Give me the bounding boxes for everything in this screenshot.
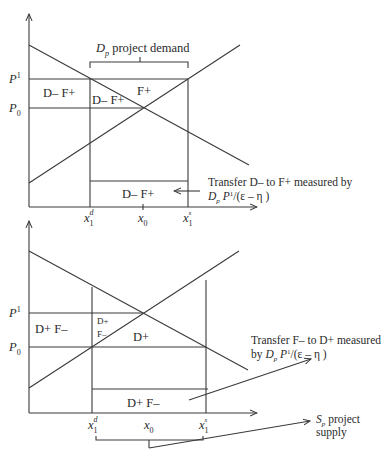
top-region-inner: D– F+ [92, 93, 124, 107]
top-panel: P1 P0 x1d x0 x1s Dp project demand D– F+… [8, 14, 353, 228]
top-transfer-note-line1: Transfer D– to F+ measured by [208, 176, 353, 189]
bottom-region-triangle: D+ [133, 330, 149, 344]
bottom-transfer-note-line1: Transfer F– to D+ measured [251, 334, 381, 346]
bottom-supply-label-line2: supply [316, 426, 347, 439]
top-region-triangle: F+ [137, 84, 151, 98]
bottom-panel: P1 P0 x1d x0 x1s D+ F– D+ F– D+ D+ F– Tr… [8, 221, 381, 448]
bottom-demand-curve [29, 251, 248, 370]
bottom-region-inner-bottom: F– [97, 329, 107, 339]
bottom-p1-label: P1 [8, 305, 21, 320]
bottom-supply-arrow [149, 421, 310, 448]
top-x0-label: x0 [137, 211, 148, 228]
top-supply-curve [29, 45, 240, 183]
bottom-supply-curve [29, 251, 239, 388]
top-transfer-note-line2: Dp P1/(ε – η ) [207, 190, 269, 205]
bottom-x1d-label: x1d [87, 415, 99, 435]
bottom-transfer-arrow [189, 359, 311, 400]
bottom-transfer-note-line2: by Dp P1/(ε – η ) [251, 348, 327, 363]
bottom-region-inner-top: D+ [97, 316, 109, 326]
top-region-bottom: D– F+ [122, 187, 154, 201]
bottom-x1s-label: x1s [198, 416, 209, 435]
bottom-x0-label: x0 [143, 418, 154, 435]
top-p0-label: P0 [8, 101, 21, 118]
top-x1s-label: x1s [182, 209, 193, 228]
bottom-p0-label: P0 [8, 340, 21, 357]
bottom-region-bottom: D+ F– [127, 396, 160, 410]
top-x1d-label: x1d [83, 208, 95, 228]
top-brace-label: Dp project demand [95, 41, 190, 58]
top-demand-curve [29, 45, 249, 165]
top-p1-label: P1 [8, 71, 21, 86]
top-region-left: D– F+ [43, 86, 75, 100]
bottom-region-left: D+ F– [35, 322, 68, 336]
top-demand-brace [90, 57, 188, 68]
economics-diagram: P1 P0 x1d x0 x1s Dp project demand D– F+… [0, 0, 388, 463]
